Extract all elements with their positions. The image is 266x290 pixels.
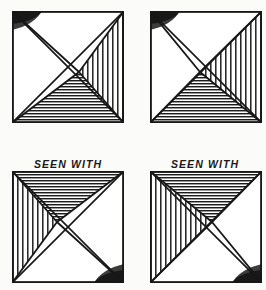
stereoscopic-figure: SEEN WITH LEFT EYE SEEN WITH RIGHT EYE — [0, 0, 266, 290]
caption-left-line1: SEEN WITH — [12, 158, 124, 172]
square-top-right — [150, 11, 262, 123]
square-top-left-graphic — [12, 11, 124, 123]
caption-right-line1: SEEN WITH — [149, 158, 261, 172]
square-top-right-graphic — [150, 11, 262, 123]
square-bottom-right — [150, 171, 262, 283]
square-bottom-left-graphic — [12, 171, 124, 283]
square-top-left — [12, 11, 124, 123]
square-bottom-left — [12, 171, 124, 283]
square-bottom-right-graphic — [150, 171, 262, 283]
